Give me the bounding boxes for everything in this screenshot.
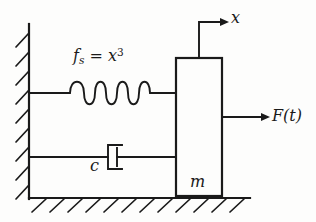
spring-label-variable: x bbox=[108, 46, 117, 65]
force-arrow bbox=[222, 113, 270, 121]
coil-spring bbox=[29, 82, 176, 105]
mass-label: m bbox=[190, 174, 205, 190]
force-label-symbol: F bbox=[272, 106, 283, 125]
fixed-ground bbox=[29, 198, 250, 212]
force-label-argument: (t) bbox=[283, 106, 302, 125]
fixed-wall bbox=[16, 24, 29, 199]
ground-hatching bbox=[32, 199, 244, 212]
spring-label: fs = x3 bbox=[73, 47, 124, 66]
schematic-canvas bbox=[0, 0, 316, 222]
displacement-arrow bbox=[199, 18, 229, 58]
displacement-label: x bbox=[231, 10, 240, 26]
spring-label-relation: = bbox=[84, 46, 108, 65]
wall-hatching bbox=[16, 33, 29, 199]
mechanical-system-diagram: fs = x3 c m F(t) x bbox=[0, 0, 316, 222]
spring-label-exponent: 3 bbox=[117, 46, 124, 58]
damper-label: c bbox=[90, 158, 99, 174]
dashpot-damper bbox=[29, 145, 176, 169]
force-label: F(t) bbox=[272, 108, 302, 124]
